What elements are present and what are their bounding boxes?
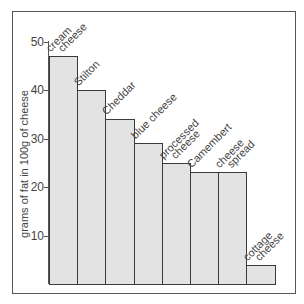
bar-cottage-cheese [246,265,276,285]
y-tick-label: 10 [24,230,44,242]
bar-cream-cheese [49,56,78,285]
bar-camembert [190,172,219,285]
y-tick-mark [44,90,48,91]
y-axis-label: grams of fat in 100g of cheese [18,90,30,238]
y-tick-label: 30 [24,133,44,145]
bar-cheese-spread [218,172,247,285]
y-tick-label: 20 [24,181,44,193]
y-tick-label: 50 [24,36,44,48]
y-tick-mark [44,236,48,237]
bar-stilton [77,90,106,285]
y-tick-mark [44,139,48,140]
y-tick-label: 40 [24,84,44,96]
bar-blue-cheese [134,143,163,285]
bar-processed-cheese [162,163,191,285]
y-tick-mark [44,187,48,188]
bar-cheddar [105,119,135,285]
